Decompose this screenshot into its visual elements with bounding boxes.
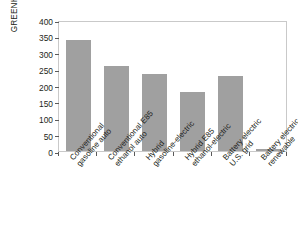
y-axis-tick: 200 — [39, 83, 59, 93]
y-axis-tick: 400 — [39, 17, 59, 27]
y-axis-tick: 150 — [39, 99, 59, 109]
y-axis-tick-label: 150 — [39, 99, 55, 109]
x-axis-labels: Conventionalgasoline autoConventional E8… — [58, 156, 298, 237]
y-axis-tick: 300 — [39, 50, 59, 60]
y-axis-title: GREENHOUSE GAS INTENSITY (g CO2e/kWh) — [6, 0, 32, 44]
y-axis-tick-label: 50 — [44, 132, 55, 142]
y-axis-tick: 50 — [44, 132, 59, 142]
y-axis-tick: 250 — [39, 66, 59, 76]
y-axis-tick-label: 400 — [39, 17, 55, 27]
y-axis-tick-label: 300 — [39, 50, 55, 60]
y-axis-tick-label: 350 — [39, 33, 55, 43]
y-axis-tick-label: 200 — [39, 83, 55, 93]
y-axis-tick: 350 — [39, 33, 59, 43]
y-axis-title-line-1: GREENHOUSE GAS INTENSITY — [11, 0, 20, 32]
y-axis-tick-label: 100 — [39, 115, 55, 125]
y-axis-tick-label: 250 — [39, 66, 55, 76]
y-axis-tick: 100 — [39, 115, 59, 125]
greenhouse-gas-intensity-bar-chart: GREENHOUSE GAS INTENSITY (g CO2e/kWh) 40… — [0, 0, 298, 237]
y-axis-tick-label: 0 — [48, 148, 55, 158]
